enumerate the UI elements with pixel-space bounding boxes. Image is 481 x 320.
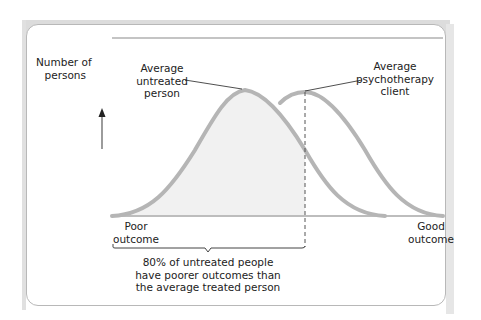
treated-annotation-line1: Average: [355, 60, 435, 73]
caption-line2: have poorer outcomes than: [133, 269, 283, 282]
untreated-annotation-line2: untreated: [132, 75, 192, 88]
treated-annotation: Average psychotherapy client: [355, 60, 435, 98]
poor-outcome-line2: outcome: [110, 233, 162, 246]
caption-line1: 80% of untreated people: [133, 256, 283, 269]
caption-line3: the average treated person: [133, 281, 283, 294]
good-outcome-label: Good outcome: [405, 220, 457, 245]
good-outcome-line1: Good: [405, 220, 457, 233]
bracket: [113, 244, 305, 252]
treated-annotation-line2: psychotherapy: [355, 73, 435, 86]
treated-leader-line: [305, 80, 362, 91]
y-axis-label-line1: Number of: [36, 56, 86, 69]
untreated-annotation-line1: Average: [132, 62, 192, 75]
untreated-leader-line: [185, 80, 242, 89]
poor-outcome-label: Poor outcome: [110, 220, 162, 245]
untreated-annotation-line3: person: [132, 87, 192, 100]
treated-annotation-line3: client: [355, 85, 435, 98]
y-axis-label-line2: persons: [36, 69, 86, 82]
y-axis-label: Number of persons: [36, 56, 86, 81]
good-outcome-line2: outcome: [405, 233, 457, 246]
poor-outcome-line1: Poor: [110, 220, 162, 233]
y-axis-arrow-icon: [99, 108, 106, 117]
untreated-annotation: Average untreated person: [132, 62, 192, 100]
caption: 80% of untreated people have poorer outc…: [133, 256, 283, 294]
